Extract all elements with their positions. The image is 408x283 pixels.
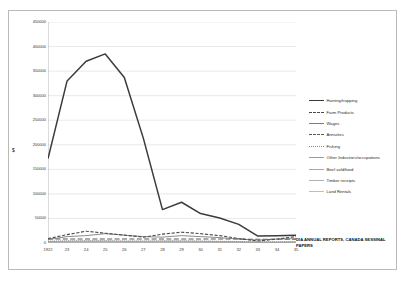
chart-frame: $ 05000010000015000020000025000030000035… <box>8 10 397 270</box>
x-axis-tick-label: 23 <box>57 247 77 252</box>
x-axis-tick-label: 25 <box>95 247 115 252</box>
legend-item[interactable]: Hunting/trapping <box>309 95 401 106</box>
legend-label: Beef sold/food <box>327 167 354 172</box>
legend-item[interactable]: Land Rentals <box>309 186 401 197</box>
legend-swatch-4 <box>309 132 324 138</box>
y-axis-tick-label: 250000 <box>15 118 46 122</box>
chart-lines-svg <box>48 22 296 243</box>
legend-swatch-2 <box>309 109 324 115</box>
y-axis-title: $ <box>12 147 15 153</box>
legend-label: Land Rentals <box>327 189 352 194</box>
y-axis-tick-label: 350000 <box>15 69 46 73</box>
x-axis-tick-label: 28 <box>152 247 172 252</box>
legend-label: Fishing <box>327 144 341 149</box>
x-axis-tick-label: 29 <box>172 247 192 252</box>
legend-label: Hunting/trapping <box>327 98 358 103</box>
y-axis-tick-label: 150000 <box>15 167 46 171</box>
x-axis-tick-label: 33 <box>248 247 268 252</box>
x-axis-tick-label: 34 <box>267 247 287 252</box>
legend-item[interactable]: Farm Products <box>309 106 401 117</box>
y-axis-tick-label: 200000 <box>15 143 46 147</box>
plot-area <box>48 22 296 243</box>
legend-item[interactable]: Annuities <box>309 129 401 140</box>
legend-item[interactable]: Fishing <box>309 141 401 152</box>
legend-swatch-7 <box>309 166 324 172</box>
legend-label: Annuities <box>327 132 344 137</box>
x-axis-tick-label: 30 <box>191 247 211 252</box>
x-axis-tick-labels: 192223242526272829303132333435 <box>48 247 296 257</box>
x-axis-tick-label: 27 <box>133 247 153 252</box>
legend-swatch-5 <box>309 143 324 149</box>
legend-item[interactable]: Beef sold/food <box>309 163 401 174</box>
chart-legend: Hunting/trappingFarm ProductsWagesAnnuit… <box>309 95 401 198</box>
x-axis-tick-label: 32 <box>229 247 249 252</box>
y-axis-tick-label: 450000 <box>15 20 46 24</box>
x-axis-tick-label: 31 <box>210 247 230 252</box>
x-axis-tick-label: 1922 <box>38 247 58 252</box>
y-axis-tick-label: 100000 <box>15 192 46 196</box>
y-axis-tick-label: 300000 <box>15 94 46 98</box>
legend-swatch-3 <box>309 120 324 126</box>
source-annotation: DIA ANNUAL REPORTS, CANADA SESSINAL PAPE… <box>296 237 396 249</box>
legend-swatch-6 <box>309 155 324 161</box>
legend-item[interactable]: Timber receipts <box>309 175 401 186</box>
legend-label: Farm Products <box>327 110 354 115</box>
legend-label: Wages <box>327 121 340 126</box>
legend-swatch-9 <box>309 189 324 195</box>
legend-item[interactable]: Other Industries/occupations <box>309 152 401 163</box>
y-axis-tick-label: 400000 <box>15 45 46 49</box>
x-axis-tick-label: 26 <box>114 247 134 252</box>
legend-swatch-1 <box>309 98 324 104</box>
legend-item[interactable]: Wages <box>309 118 401 129</box>
y-axis-tick-labels: 0500001000001500002000002500003000003500… <box>17 22 48 243</box>
legend-label: Timber receipts <box>327 178 356 183</box>
legend-label: Other Industries/occupations <box>327 155 380 160</box>
x-axis-tick-label: 24 <box>76 247 96 252</box>
y-axis-tick-label: 0 <box>15 241 46 245</box>
y-axis-tick-label: 50000 <box>15 216 46 220</box>
legend-swatch-8 <box>309 177 324 183</box>
